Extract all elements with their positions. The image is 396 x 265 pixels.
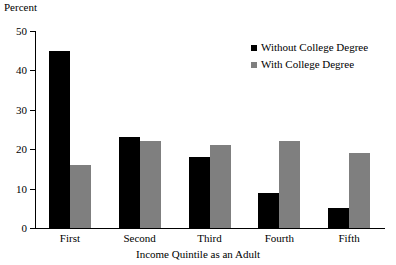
legend-swatch-icon bbox=[251, 62, 257, 68]
bar-group bbox=[189, 31, 233, 228]
bar bbox=[210, 145, 231, 228]
bar bbox=[279, 141, 300, 228]
legend-label: With College Degree bbox=[261, 58, 354, 71]
bar bbox=[328, 208, 349, 228]
bar bbox=[349, 153, 370, 228]
legend-item: Without College Degree bbox=[251, 39, 368, 56]
bar bbox=[189, 157, 210, 228]
y-axis-tick-label: 20 bbox=[5, 144, 27, 155]
bar bbox=[119, 137, 140, 228]
bar bbox=[140, 141, 161, 228]
bar bbox=[49, 51, 70, 228]
x-axis-title: Income Quintile as an Adult bbox=[0, 248, 396, 261]
bar bbox=[70, 165, 91, 228]
x-axis-tick-label: Fifth bbox=[304, 232, 394, 245]
y-axis-tick bbox=[30, 70, 35, 71]
bar-group bbox=[49, 31, 93, 228]
legend-item: With College Degree bbox=[251, 56, 368, 73]
y-axis-tick bbox=[30, 228, 35, 229]
y-axis-tick-label: 30 bbox=[5, 105, 27, 116]
bar bbox=[258, 193, 279, 228]
legend-swatch-icon bbox=[251, 45, 257, 51]
y-axis-tick-label: 40 bbox=[5, 65, 27, 76]
y-axis-tick bbox=[30, 110, 35, 111]
bar-group bbox=[119, 31, 163, 228]
chart-legend: Without College DegreeWith College Degre… bbox=[251, 39, 368, 73]
y-axis-tick-label: 50 bbox=[5, 26, 27, 37]
y-axis-tick-label: 0 bbox=[5, 223, 27, 234]
y-axis-tick-label: 10 bbox=[5, 184, 27, 195]
legend-label: Without College Degree bbox=[261, 41, 368, 54]
x-axis-line bbox=[35, 228, 385, 229]
y-axis-tick bbox=[30, 189, 35, 190]
y-axis-tick bbox=[30, 149, 35, 150]
y-axis-title: Percent bbox=[4, 1, 37, 14]
bar-chart: Percent 01020304050 FirstSecondThirdFour… bbox=[0, 0, 396, 265]
y-axis-tick bbox=[30, 31, 35, 32]
